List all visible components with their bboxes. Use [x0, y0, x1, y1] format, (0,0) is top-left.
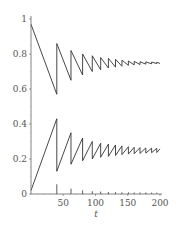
series-lower-line	[31, 119, 160, 191]
y-tick-label: 0.4	[13, 119, 28, 129]
x-axis-label: t	[94, 209, 98, 219]
y-tick-label: 0.8	[13, 49, 28, 59]
y-tick-label: 0	[21, 189, 27, 199]
series-upper-line	[31, 24, 160, 94]
y-tick-label: 0.6	[13, 84, 28, 94]
y-ticks: 00.20.40.60.81	[13, 14, 31, 199]
plot-lines	[31, 24, 160, 194]
y-tick-label: 1	[21, 14, 27, 24]
chart: 00.20.40.60.81 50100150200 t	[0, 0, 180, 225]
x-ticks: 50100150200	[31, 194, 169, 208]
x-tick-label: 200	[151, 198, 168, 208]
y-tick-label: 0.2	[13, 154, 27, 164]
x-tick-label: 150	[119, 198, 136, 208]
x-tick-label: 100	[87, 198, 104, 208]
x-tick-label: 50	[58, 198, 70, 208]
axes	[31, 16, 162, 194]
